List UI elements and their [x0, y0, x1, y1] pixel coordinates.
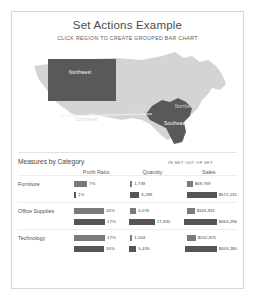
table-row[interactable]: 17% 17,830 $663,296: [18, 216, 237, 227]
bar-group-furniture: Furniture 7% 1,739 $69,769 1%: [18, 175, 237, 202]
bar-sales-in-set: [187, 208, 195, 214]
cell-quantity-in-set: 1,739: [124, 181, 180, 187]
cell-sales-out-of-set: $663,296: [178, 219, 237, 225]
page-subtitle: CLICK REGION TO CREATE GROUPED BAR CHART: [12, 35, 243, 41]
cell-profit-ratio-in-set: 7%: [68, 181, 124, 187]
bar-group-technology: Technology 17% 1,504 $202,875: [18, 229, 237, 256]
cell-quantity-in-set: 5,076: [124, 208, 180, 214]
table-row[interactable]: Office Supplies 16% 5,076 $165,831: [18, 205, 237, 216]
bar-quantity-in-set: [130, 208, 136, 214]
cell-sales-in-set: $69,769: [181, 181, 237, 187]
cell-sales-out-of-set: $572,231: [181, 192, 237, 198]
category-label-furniture: Furniture: [18, 181, 68, 187]
table-row[interactable]: Furniture 7% 1,739 $69,769: [18, 178, 237, 189]
bar-sales-out-of-set: [187, 192, 217, 198]
section-divider: [18, 152, 237, 153]
cell-profit-ratio-out-of-set: 1%: [68, 192, 124, 198]
bar-group-office-supplies: Office Supplies 16% 5,076 $165,831: [18, 202, 237, 229]
cell-sales-in-set: $165,831: [181, 208, 237, 214]
cell-profit-ratio-in-set: 17%: [68, 235, 124, 241]
category-label-office-supplies: Office Supplies: [18, 208, 68, 214]
bar-section-title: Measures by Category: [18, 158, 84, 165]
cell-sales-in-set: $202,875: [181, 235, 237, 241]
cell-profit-ratio-out-of-set: 17%: [68, 219, 123, 225]
table-row[interactable]: Technology 17% 1,504 $202,875: [18, 232, 237, 243]
bar-quantity-out-of-set: [129, 246, 136, 252]
map-svg: [12, 44, 243, 148]
visualization-container: Set Actions Example CLICK REGION TO CREA…: [11, 11, 244, 289]
bar-quantity-in-set: [130, 181, 132, 187]
bar-profit-ratio-in-set: [74, 235, 105, 241]
cell-quantity-in-set: 1,504: [124, 235, 180, 241]
cell-quantity-out-of-set: 6,289: [124, 192, 180, 198]
bar-quantity-in-set: [130, 235, 132, 241]
bar-profit-ratio-in-set: [74, 208, 104, 214]
map-region-northwest[interactable]: [48, 59, 116, 101]
bar-profit-ratio-out-of-set: [74, 246, 104, 252]
cell-sales-out-of-set: $653,280: [179, 246, 237, 252]
cell-profit-ratio-in-set: 16%: [68, 208, 124, 214]
bar-quantity-out-of-set: [129, 219, 155, 225]
bar-chart-section: Measures by Category IN SET OUT OF SET P…: [12, 158, 243, 256]
bar-chart-header: Measures by Category IN SET OUT OF SET: [18, 158, 237, 165]
bar-profit-ratio-out-of-set: [74, 192, 76, 198]
bar-sales-in-set: [187, 181, 193, 187]
page-title: Set Actions Example: [12, 19, 243, 31]
cell-quantity-out-of-set: 17,830: [123, 219, 178, 225]
table-row[interactable]: 16% 5,435 $653,280: [18, 243, 237, 254]
bar-profit-ratio-out-of-set: [74, 219, 105, 225]
bar-legend: IN SET OUT OF SET: [168, 160, 213, 165]
table-row[interactable]: 1% 6,289 $572,231: [18, 189, 237, 200]
category-label-technology: Technology: [18, 235, 68, 241]
bar-sales-in-set: [187, 235, 196, 241]
bar-profit-ratio-in-set: [74, 181, 87, 187]
bar-quantity-out-of-set: [130, 192, 139, 198]
bar-sales-out-of-set: [185, 246, 217, 252]
cell-profit-ratio-out-of-set: 16%: [68, 246, 123, 252]
cell-quantity-out-of-set: 5,435: [123, 246, 178, 252]
us-region-map[interactable]: Northwest Central Southwest Northeast So…: [12, 44, 243, 148]
bar-sales-out-of-set: [184, 219, 217, 225]
